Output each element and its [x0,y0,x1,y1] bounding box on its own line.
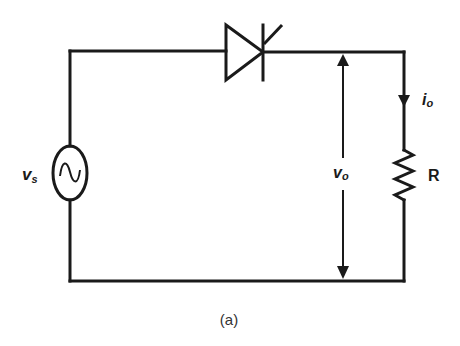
svg-text:io: io [422,91,433,109]
source-label-sub: s [31,173,37,185]
resistor [395,150,413,200]
svg-text:vs: vs [22,165,38,185]
output-current-label: io [422,91,433,109]
output-voltage-label-sub: o [342,170,349,182]
figure-caption: (a) [220,311,238,328]
resistor-label-text: R [428,167,440,184]
source-label: vs [22,165,38,185]
output-current-label-sub: o [426,97,433,109]
output-current-arrow [398,95,410,107]
ac-voltage-source [53,146,87,200]
resistor-label: R [428,167,440,184]
svg-text:vo: vo [333,164,349,182]
output-voltage-label: vo [333,164,349,182]
circuit-diagram: vs vo io R (a) [0,0,460,346]
wire-top [70,51,404,52]
sine-wave-icon [60,163,80,181]
thyristor-gate-lead [265,26,281,43]
